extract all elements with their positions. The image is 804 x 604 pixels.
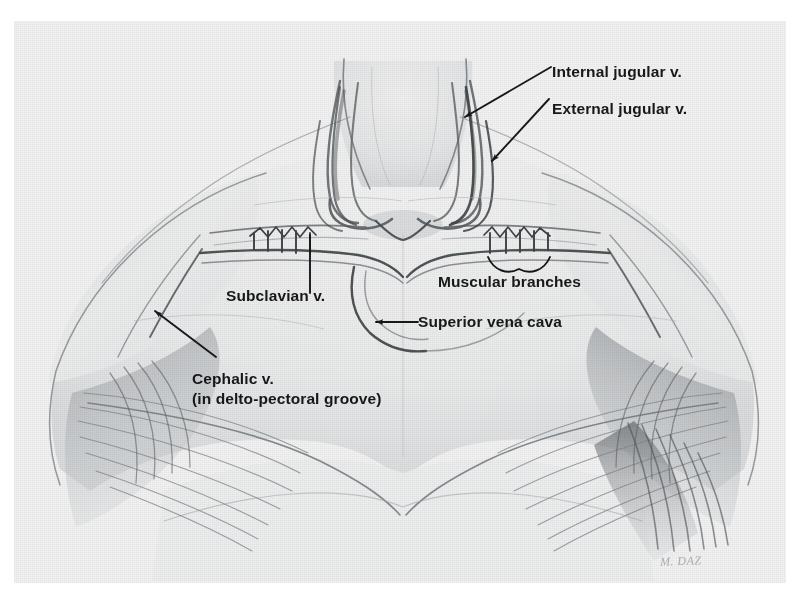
- label-subclavian: Subclavian v.: [226, 286, 325, 305]
- label-superior-vena-cava: Superior vena cava: [418, 312, 562, 331]
- illustration-plate: Internal jugular v. External jugular v. …: [14, 21, 786, 583]
- label-cephalic-vein: Cephalic v.: [192, 369, 274, 388]
- label-internal-jugular: Internal jugular v.: [552, 62, 682, 81]
- artist-signature: M. DAZ: [660, 553, 702, 569]
- neck-mass: [334, 61, 472, 187]
- abdomen-mass: [152, 459, 654, 581]
- label-cephalic-groove: (in delto-pectoral groove): [192, 389, 381, 408]
- figure-root: Internal jugular v. External jugular v. …: [0, 0, 804, 604]
- label-muscular-branches: Muscular branches: [438, 272, 581, 291]
- label-external-jugular: External jugular v.: [552, 99, 687, 118]
